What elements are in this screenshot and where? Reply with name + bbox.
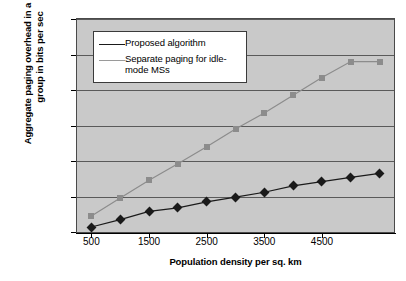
legend: Proposed algorithm Separate paging for i…	[93, 31, 247, 83]
data-point	[175, 161, 181, 167]
data-point	[117, 216, 124, 223]
data-point	[290, 92, 296, 98]
data-point	[261, 189, 268, 196]
legend-marker-square-icon	[99, 54, 125, 67]
data-point	[319, 75, 325, 81]
data-point	[204, 144, 210, 150]
x-axis-title: Population density per sq. km	[76, 256, 395, 267]
chart-figure: Aggregate paging overhead in a paging gr…	[0, 0, 406, 281]
data-point	[88, 224, 95, 231]
legend-label-separate-paging: Separate paging for idle-mode MSs	[125, 53, 240, 75]
legend-label-proposed-algorithm: Proposed algorithm	[125, 37, 206, 48]
data-point	[146, 177, 152, 183]
legend-marker-diamond-icon	[99, 38, 125, 51]
x-tick-mark	[207, 233, 208, 238]
x-tick-mark	[264, 233, 265, 238]
legend-item-separate-paging: Separate paging for idle-mode MSs	[99, 53, 240, 75]
data-point	[376, 170, 383, 177]
data-point	[290, 182, 297, 189]
data-point	[232, 194, 239, 201]
data-point	[88, 213, 94, 219]
x-tick-mark	[149, 233, 150, 238]
plot-area: Proposed algorithm Separate paging for i…	[76, 18, 395, 233]
x-tick-mark	[322, 233, 323, 238]
data-point	[117, 195, 123, 201]
data-point	[318, 178, 325, 185]
data-point	[347, 174, 354, 181]
data-point	[348, 59, 354, 65]
x-axis-line	[76, 233, 396, 234]
data-point	[203, 198, 210, 205]
x-tick-mark	[91, 233, 92, 238]
data-point	[233, 126, 239, 132]
data-point	[377, 59, 383, 65]
data-point	[146, 208, 153, 215]
y-axis-title: Aggregate paging overhead in a paging gr…	[22, 0, 46, 157]
data-point	[174, 204, 181, 211]
data-point	[261, 110, 267, 116]
legend-item-proposed-algorithm: Proposed algorithm	[99, 37, 240, 51]
